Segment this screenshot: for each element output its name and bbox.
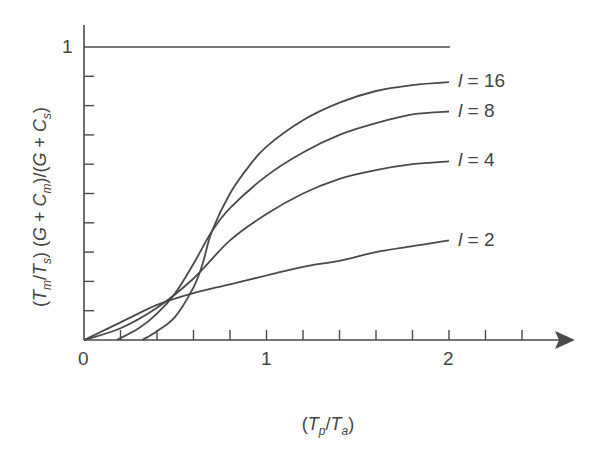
series-label-l2: l = 2 — [458, 229, 494, 251]
curves — [84, 82, 449, 340]
curve-l2 — [84, 240, 449, 340]
curve-l8 — [117, 112, 449, 341]
y-tick-label-1: 1 — [62, 36, 73, 58]
y-ticks — [84, 76, 94, 310]
x-tick-label-0: 0 — [78, 348, 89, 370]
series-label-l16: l = 16 — [458, 70, 505, 92]
series-label-l4: l = 4 — [458, 149, 494, 171]
y-axis-label: (Tm/Ts) (G + Cm)/(G + Cs) — [30, 107, 54, 307]
series-label-l8: l = 8 — [458, 100, 494, 122]
chart-canvas — [0, 0, 603, 460]
x-tick-label-1: 1 — [261, 348, 272, 370]
curve-l16 — [142, 82, 449, 340]
x-tick-label-2: 2 — [443, 348, 454, 370]
x-axis-label: (Tp/Ta) — [302, 414, 354, 438]
x-ticks — [121, 330, 523, 340]
